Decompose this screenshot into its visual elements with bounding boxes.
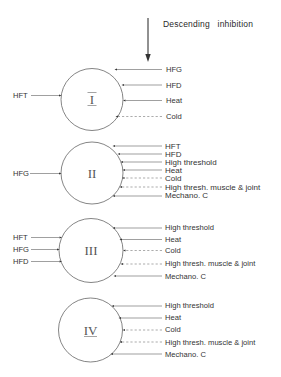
arrow-icon [114,275,117,277]
right-input-label: Heat [165,235,182,244]
left-input-label: HFT [13,91,28,100]
left-input-label: HFT [13,233,28,242]
right-input-label: High threshold [165,301,214,310]
right-input-label: Mechano. C [165,191,208,200]
right-input-label: Cold [165,325,181,334]
unit-III: III HFT HFG HFD High threshold Heat Cold… [13,219,256,283]
arrow-icon [115,68,118,70]
neuron-input-diagram: Descending inhibition I HFT HFG HFD Heat… [0,0,281,377]
right-input-label: Cold [166,112,182,121]
right-input-label: HFD [166,81,182,90]
down-arrow-icon [145,54,150,62]
right-input-label: Cold [165,174,181,183]
unit-II: II HFG HFT HFD High threshold Heat Cold … [13,142,261,204]
descending-inhibition-label: Descending inhibition [163,19,253,29]
right-input-label: Cold [165,246,181,255]
right-input-label: High thresh. muscle & joint [165,259,256,268]
arrow-icon [116,115,119,117]
unit-IV: IV High threshold Heat Cold High thresh.… [59,298,257,362]
unit-I: I HFT HFG HFD Heat Cold [13,65,183,131]
right-input-label: Mechano. C [165,350,206,359]
left-input-label: HFG [13,245,29,254]
descending-inhibition: Descending inhibition [145,18,253,62]
left-input-label: HFD [13,257,29,266]
numeral-II: II [88,166,97,181]
right-input-label: Mechano. C [165,272,206,281]
right-input-label: High threshold [165,223,214,232]
left-input-label: HFG [13,169,29,178]
arrow-icon [113,145,116,147]
numeral-IV: IV [84,323,98,338]
arrow-icon [121,263,124,265]
right-input-label: High thresh. muscle & joint [165,338,256,347]
arrow-icon [118,153,121,155]
arrow-icon [122,84,125,86]
right-input-label: Heat [165,313,182,322]
right-input-label: Heat [166,96,183,105]
right-input-label: HFG [166,65,182,74]
numeral-III: III [85,243,98,258]
numeral-I: I [90,92,94,107]
